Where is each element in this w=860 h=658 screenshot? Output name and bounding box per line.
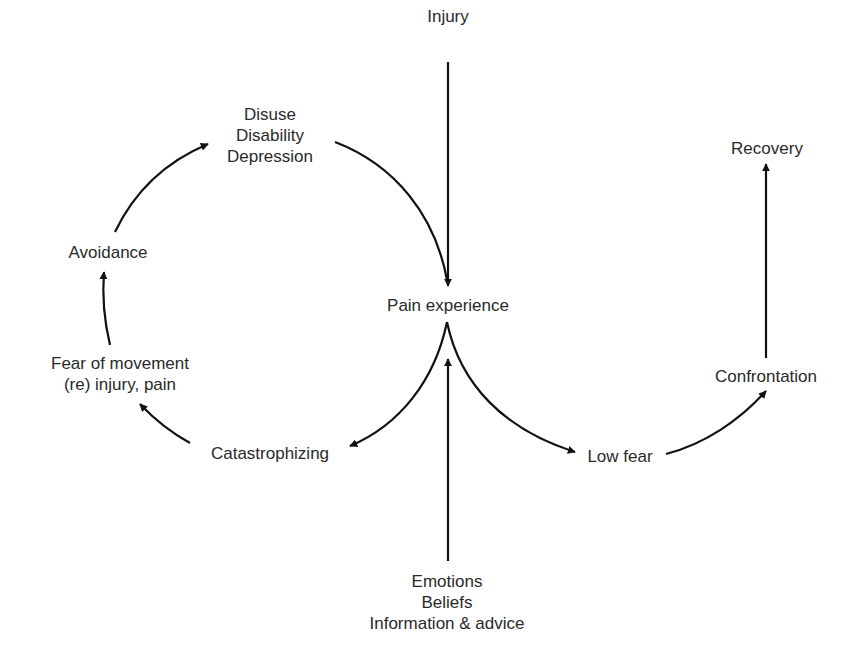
- edge-catastrophizing-to-fear: [140, 404, 190, 443]
- edge-disuse-to-pain: [335, 142, 447, 280]
- node-depression-label: Depression: [227, 146, 313, 167]
- fear-avoidance-diagram: Injury Disuse Disability Depression Reco…: [0, 0, 860, 658]
- node-pain-experience-label: Pain experience: [387, 295, 509, 316]
- node-low-fear: Low fear: [587, 446, 652, 467]
- edge-fear-to-avoidance: [103, 272, 110, 345]
- node-catastrophizing-label: Catastrophizing: [211, 443, 329, 464]
- edge-low-fear-to-confrontation: [666, 391, 766, 454]
- node-avoidance-label: Avoidance: [68, 242, 147, 263]
- node-recovery-label: Recovery: [731, 138, 803, 159]
- node-emotions-label: Emotions: [370, 571, 525, 592]
- node-low-fear-label: Low fear: [587, 446, 652, 467]
- node-avoidance: Avoidance: [68, 242, 147, 263]
- node-fear-of-movement: Fear of movement (re) injury, pain: [51, 353, 189, 395]
- node-recovery: Recovery: [731, 138, 803, 159]
- node-reinjury-pain-label: (re) injury, pain: [51, 374, 189, 395]
- edge-avoidance-to-disuse: [115, 144, 208, 232]
- node-confrontation: Confrontation: [715, 366, 817, 387]
- node-disuse-disability-depression: Disuse Disability Depression: [227, 104, 313, 167]
- node-emotions-beliefs-information: Emotions Beliefs Information & advice: [370, 571, 525, 634]
- node-injury: Injury: [427, 6, 469, 27]
- node-fear-of-movement-label: Fear of movement: [51, 353, 189, 374]
- node-disuse-label: Disuse: [227, 104, 313, 125]
- node-beliefs-label: Beliefs: [370, 592, 525, 613]
- edge-pain-to-low-fear: [447, 322, 575, 452]
- diagram-edges: [0, 0, 860, 658]
- node-disability-label: Disability: [227, 125, 313, 146]
- node-information-advice-label: Information & advice: [370, 613, 525, 634]
- node-injury-label: Injury: [427, 6, 469, 27]
- node-pain-experience: Pain experience: [387, 295, 509, 316]
- node-confrontation-label: Confrontation: [715, 366, 817, 387]
- node-catastrophizing: Catastrophizing: [211, 443, 329, 464]
- edge-pain-to-catastrophizing: [350, 322, 447, 446]
